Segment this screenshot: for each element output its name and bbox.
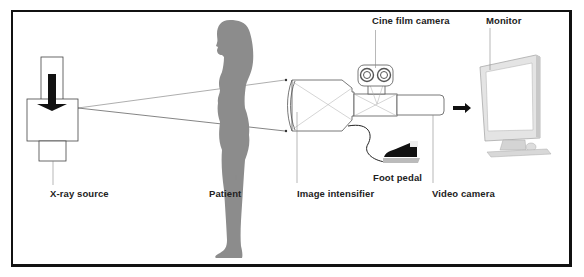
cine-film-camera-icon xyxy=(358,30,393,86)
monitor-icon xyxy=(480,28,551,157)
optical-distributor xyxy=(354,84,397,116)
label-xray-source: X-ray source xyxy=(50,188,109,199)
video-camera-icon xyxy=(397,95,444,183)
patient-silhouette-icon xyxy=(215,20,253,258)
xray-beam-lines xyxy=(78,79,287,132)
diagram-graphics xyxy=(0,0,584,277)
label-foot-pedal: Foot pedal xyxy=(373,172,422,183)
label-cine-film-camera: Cine film camera xyxy=(372,15,450,26)
diagram-canvas: X-ray source Patient Image intensifier F… xyxy=(0,0,584,277)
image-intensifier-icon xyxy=(288,80,355,131)
foot-pedal-icon xyxy=(348,125,420,163)
label-image-intensifier: Image intensifier xyxy=(297,188,374,199)
label-patient: Patient xyxy=(209,188,241,199)
label-monitor: Monitor xyxy=(486,15,522,26)
signal-arrow-icon xyxy=(453,103,471,113)
xray-source-icon xyxy=(27,57,78,185)
label-video-camera: Video camera xyxy=(432,188,495,199)
